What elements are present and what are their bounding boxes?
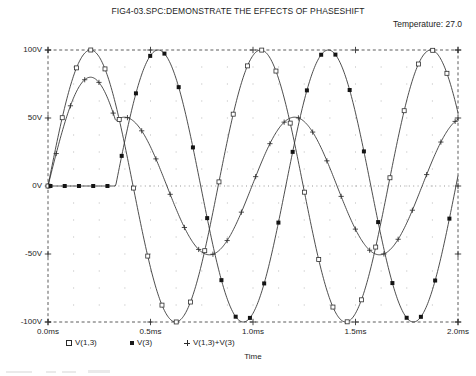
scan-artifact (62, 371, 76, 373)
x-tick-label: 2.0ms (428, 327, 476, 336)
plus-marker (184, 340, 190, 346)
scan-artifact (88, 370, 110, 373)
scan-artifact (6, 371, 32, 373)
y-tick-label: 100V (0, 45, 42, 54)
y-tick-label: -100V (0, 317, 42, 326)
x-tick-label: 1.0ms (223, 327, 283, 336)
scan-artifact (46, 371, 56, 373)
y-tick-label: 50V (0, 113, 42, 122)
y-tick-label: -50V (0, 249, 42, 258)
legend-item: V(1,3)+V(3) (184, 338, 235, 348)
legend-label: V(1,3) (75, 338, 97, 348)
y-tick-label: 0V (0, 181, 42, 190)
x-tick-label: 0.0ms (18, 327, 78, 336)
open-square-marker (66, 340, 72, 346)
legend-label: V(1,3)+V(3) (193, 338, 235, 348)
chart-screenshot: FIG4-03.SPC:DEMONSTRATE THE EFFECTS OF P… (0, 0, 476, 376)
x-tick-label: 1.5ms (326, 327, 386, 336)
chart-legend: V(1,3) V(3) V(1,3)+V(3) (48, 338, 348, 352)
filled-square-marker (130, 341, 134, 345)
x-tick-label: 0.5ms (121, 327, 181, 336)
x-axis-title: Time (213, 352, 293, 361)
legend-label: V(3) (137, 338, 152, 348)
legend-item: V(3) (130, 338, 152, 348)
legend-item: V(1,3) (66, 338, 97, 348)
plot-area (0, 0, 476, 376)
